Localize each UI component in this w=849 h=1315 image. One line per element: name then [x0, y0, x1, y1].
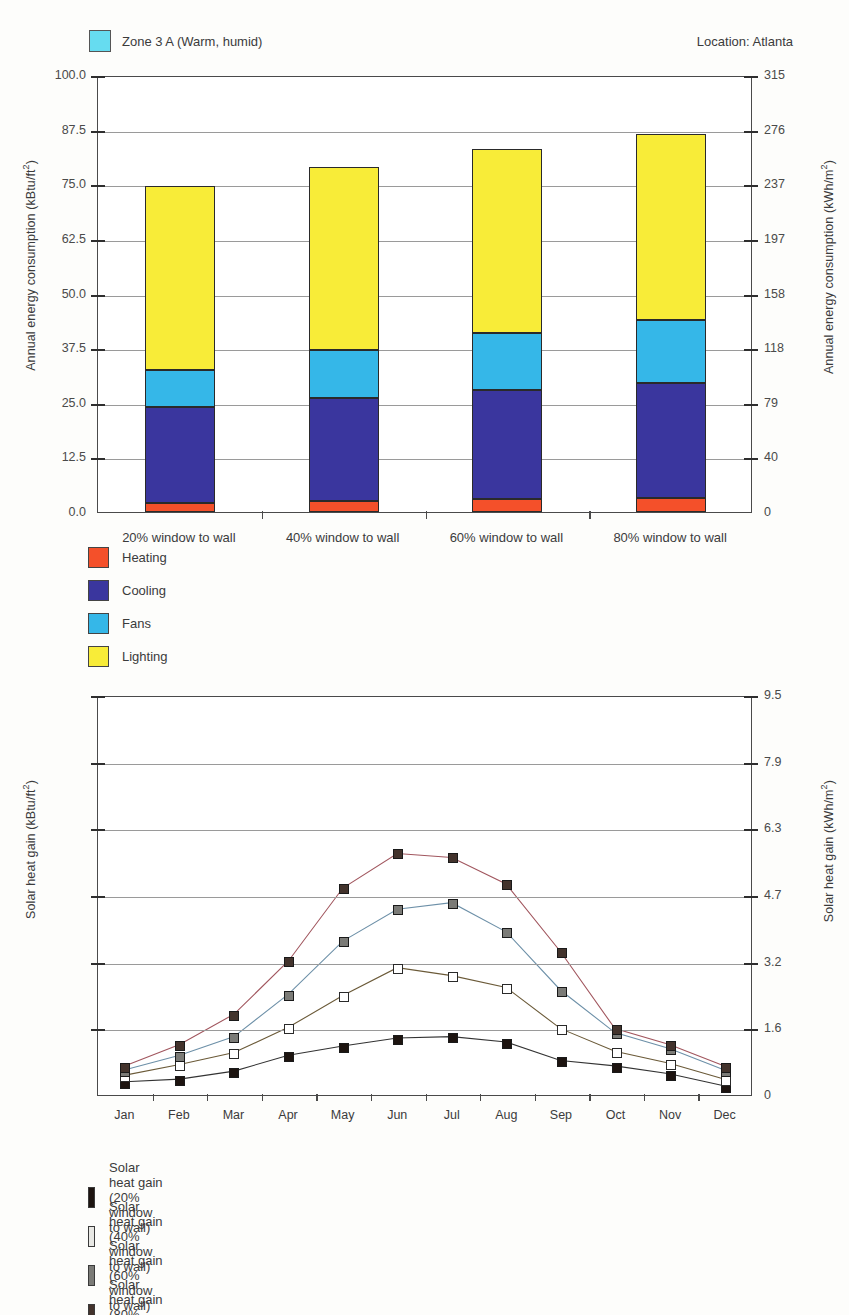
chart2-tick-left — [91, 963, 105, 965]
series-marker[interactable] — [175, 1061, 185, 1071]
chart1-tick-right — [744, 185, 758, 187]
series-marker[interactable] — [284, 1024, 294, 1034]
bar-segment-fans[interactable] — [309, 350, 379, 398]
chart2-tick-right — [744, 763, 758, 765]
bar-segment-heating[interactable] — [145, 503, 215, 512]
bar-stack[interactable] — [636, 75, 706, 512]
bar-stack[interactable] — [472, 75, 542, 512]
zone-legend-swatch — [89, 30, 111, 52]
chart2-gridline — [98, 764, 751, 765]
series-marker[interactable] — [393, 964, 403, 974]
series-marker[interactable] — [612, 1063, 622, 1073]
chart2-gridline — [98, 830, 751, 831]
bar-segment-lighting[interactable] — [636, 134, 706, 320]
bar-segment-cooling[interactable] — [636, 383, 706, 498]
series-marker[interactable] — [229, 1049, 239, 1059]
series-marker[interactable] — [612, 1025, 622, 1035]
bar-segment-fans[interactable] — [145, 370, 215, 407]
chart2-gridline — [98, 1030, 751, 1031]
bar-segment-cooling[interactable] — [145, 407, 215, 503]
series-marker[interactable] — [284, 1052, 294, 1062]
series-marker[interactable] — [502, 880, 512, 890]
bar-segment-fans[interactable] — [636, 320, 706, 383]
series-marker[interactable] — [448, 1033, 458, 1043]
series-marker[interactable] — [229, 1068, 239, 1078]
chart2-gridline — [98, 964, 751, 965]
series-marker[interactable] — [448, 899, 458, 909]
chart2-ytick-label-right: 3.2 — [764, 955, 781, 969]
series-marker[interactable] — [557, 987, 567, 997]
chart2-x-tick — [207, 1094, 208, 1101]
series-marker[interactable] — [448, 972, 458, 982]
series-marker[interactable] — [339, 937, 349, 947]
bar-segment-cooling[interactable] — [472, 390, 542, 499]
series-marker[interactable] — [175, 1041, 185, 1051]
chart1-legend-item[interactable]: Heating — [88, 547, 167, 568]
series-marker[interactable] — [666, 1060, 676, 1070]
chart2-x-tick — [426, 1094, 427, 1101]
c2-ylabel-left-text: Solar heat gain (kBtu/ft2) — [24, 780, 38, 919]
series-marker[interactable] — [120, 1063, 130, 1073]
chart1-ytick-label-right: 237 — [764, 177, 785, 191]
series-line — [125, 968, 724, 1079]
bar-segment-lighting[interactable] — [145, 186, 215, 370]
series-marker[interactable] — [612, 1048, 622, 1058]
series-marker[interactable] — [448, 853, 458, 863]
series-marker[interactable] — [502, 928, 512, 938]
series-marker[interactable] — [393, 905, 403, 915]
chart2-x-tick — [262, 1094, 263, 1101]
chart1-x-tick — [262, 511, 263, 519]
series-marker[interactable] — [229, 1033, 239, 1043]
chart1-tick-right — [744, 240, 758, 242]
series-marker[interactable] — [557, 1025, 567, 1035]
series-marker[interactable] — [339, 884, 349, 894]
chart2-y-axis-title-left: Solar heat gain (kBtu/ft2) — [21, 780, 38, 919]
legend-label: Cooling — [122, 583, 166, 598]
chart1-legend-item[interactable]: Cooling — [88, 580, 166, 601]
series-marker[interactable] — [666, 1041, 676, 1051]
series-marker[interactable] — [175, 1076, 185, 1086]
series-marker[interactable] — [393, 1035, 403, 1045]
bar-chart-annual-energy: Zone 3 A (Warm, humid) Location: Atlanta… — [0, 0, 849, 660]
bar-segment-heating[interactable] — [636, 498, 706, 512]
chart2-tick-right — [744, 829, 758, 831]
chart2-ytick-label-right: 7.9 — [764, 755, 781, 769]
chart2-legend-item[interactable]: Solar heat gain (80% window to wall) — [88, 1277, 166, 1315]
chart1-ytick-label-right: 0 — [764, 505, 771, 519]
chart1-ytick-label-right: 79 — [764, 396, 778, 410]
series-marker[interactable] — [666, 1071, 676, 1081]
series-marker[interactable] — [175, 1052, 185, 1062]
chart1-legend-item[interactable]: Fans — [88, 613, 151, 634]
series-marker[interactable] — [721, 1063, 731, 1073]
series-marker[interactable] — [557, 1057, 567, 1067]
bar-segment-heating[interactable] — [472, 499, 542, 512]
bar-stack[interactable] — [309, 75, 379, 512]
series-marker[interactable] — [721, 1076, 731, 1086]
legend-label: Solar heat gain (80% window to wall) — [109, 1277, 166, 1315]
bar-segment-lighting[interactable] — [309, 167, 379, 351]
series-marker[interactable] — [339, 992, 349, 1002]
series-marker[interactable] — [339, 1043, 349, 1053]
chart2-gridline — [98, 897, 751, 898]
bar-segment-lighting[interactable] — [472, 149, 542, 333]
legend-swatch — [88, 1304, 95, 1315]
chart2-x-tick — [371, 1094, 372, 1101]
series-marker[interactable] — [557, 948, 567, 958]
legend-swatch-heating — [88, 547, 109, 568]
bar-segment-heating[interactable] — [309, 501, 379, 512]
chart1-ytick-label-right: 40 — [764, 450, 778, 464]
series-line — [125, 903, 724, 1070]
series-marker[interactable] — [502, 984, 512, 994]
series-marker[interactable] — [284, 991, 294, 1001]
series-marker[interactable] — [284, 957, 294, 967]
bar-segment-cooling[interactable] — [309, 398, 379, 500]
location-label: Location: Atlanta — [697, 34, 793, 49]
series-marker[interactable] — [502, 1039, 512, 1049]
series-marker[interactable] — [229, 1011, 239, 1021]
series-marker[interactable] — [393, 849, 403, 859]
chart1-ytick-label-right: 276 — [764, 123, 785, 137]
bar-segment-fans[interactable] — [472, 333, 542, 390]
chart2-month-label: Sep — [531, 1108, 591, 1122]
chart2-tick-left — [91, 763, 105, 765]
bar-stack[interactable] — [145, 75, 215, 512]
